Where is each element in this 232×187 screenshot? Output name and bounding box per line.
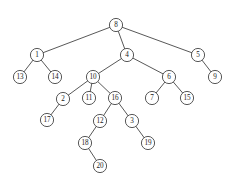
tree-edge xyxy=(98,82,110,94)
tree-node-circle[interactable] xyxy=(120,48,133,61)
tree-edge xyxy=(90,83,92,91)
tree-edge xyxy=(99,59,122,74)
tree-edge xyxy=(156,82,165,93)
tree-edge xyxy=(202,60,211,72)
tree-node[interactable]: 3 xyxy=(125,114,138,127)
tree-node-circle[interactable] xyxy=(109,18,122,31)
tree-edge xyxy=(122,27,192,52)
tree-node-circle[interactable] xyxy=(145,91,158,104)
tree-edge xyxy=(43,27,110,52)
tree-edge xyxy=(104,104,112,116)
tree-node-circle[interactable] xyxy=(30,48,43,61)
tree-node-circle[interactable] xyxy=(125,114,138,127)
tree-node[interactable]: 13 xyxy=(13,70,26,83)
tree-node-circle[interactable] xyxy=(141,136,154,149)
tree-diagram-figure: 8145131410692111671517123181920 xyxy=(0,0,232,187)
tree-node-circle[interactable] xyxy=(13,70,26,83)
tree-node[interactable]: 16 xyxy=(108,91,121,104)
tree-node[interactable]: 15 xyxy=(180,91,193,104)
tree-node[interactable]: 18 xyxy=(78,136,91,149)
tree-node-circle[interactable] xyxy=(40,113,53,126)
tree-edge xyxy=(133,58,163,74)
tree-edge xyxy=(136,126,144,137)
tree-node-circle[interactable] xyxy=(208,70,221,83)
tree-node-circle[interactable] xyxy=(56,92,69,105)
tree-node-circle[interactable] xyxy=(180,91,193,104)
tree-node[interactable]: 9 xyxy=(208,70,221,83)
tree-node[interactable]: 5 xyxy=(191,48,204,61)
tree-edge xyxy=(118,31,124,49)
tree-node[interactable]: 7 xyxy=(145,91,158,104)
tree-edge xyxy=(89,126,97,137)
tree-node[interactable]: 4 xyxy=(120,48,133,61)
tree-node-circle[interactable] xyxy=(78,136,91,149)
tree-node-circle[interactable] xyxy=(82,91,95,104)
tree-node-circle[interactable] xyxy=(93,159,106,172)
tree-edge xyxy=(173,82,182,93)
tree-node[interactable]: 8 xyxy=(109,18,122,31)
tree-edge xyxy=(24,60,33,72)
tree-node[interactable]: 20 xyxy=(93,159,106,172)
tree-node[interactable]: 6 xyxy=(162,70,175,83)
tree-diagram-canvas: 8145131410692111671517123181920 xyxy=(0,0,232,187)
tree-node-circle[interactable] xyxy=(48,70,61,83)
tree-node[interactable]: 17 xyxy=(40,113,53,126)
tree-node-layer: 8145131410692111671517123181920 xyxy=(13,18,221,172)
tree-node[interactable]: 14 xyxy=(48,70,61,83)
tree-node[interactable]: 19 xyxy=(141,136,154,149)
tree-node-circle[interactable] xyxy=(108,91,121,104)
tree-node-circle[interactable] xyxy=(93,114,106,127)
tree-node[interactable]: 10 xyxy=(86,70,99,83)
tree-edge xyxy=(51,104,59,115)
tree-node-circle[interactable] xyxy=(162,70,175,83)
tree-node[interactable]: 12 xyxy=(93,114,106,127)
tree-edge xyxy=(41,60,51,72)
tree-node-circle[interactable] xyxy=(86,70,99,83)
tree-node-circle[interactable] xyxy=(191,48,204,61)
tree-edge xyxy=(119,103,128,115)
tree-node[interactable]: 11 xyxy=(82,91,95,104)
tree-node[interactable]: 2 xyxy=(56,92,69,105)
tree-node[interactable]: 1 xyxy=(30,48,43,61)
tree-edge xyxy=(89,149,97,161)
